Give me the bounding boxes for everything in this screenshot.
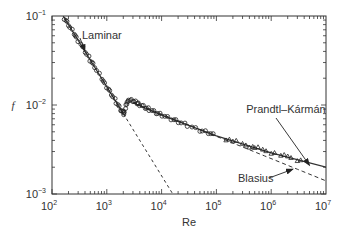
data-marker-triangle [256,145,260,149]
x-tick-label: 106 [260,199,276,212]
y-tick-label: 10−3 [26,187,46,200]
friction-factor-chart: 10210310410510610710−110−210−3 LaminarPr… [0,0,342,232]
annotation-label: Prandtl–Kármán [246,103,326,115]
y-axis-label: f [11,99,16,111]
x-tick-label: 102 [41,199,57,212]
laminar-extrapolation-line [123,114,178,203]
y-tick-label: 10−2 [26,98,46,111]
annotation-label: Blasius [238,172,274,184]
x-tick-label: 103 [96,199,112,212]
x-tick-label: 104 [151,199,167,212]
annotation-label: Laminar [82,29,122,41]
x-tick-label: 105 [205,199,221,212]
x-tick-label: 107 [315,199,331,212]
y-tick-label: 10−1 [26,9,46,22]
x-axis-label: Re [182,216,196,228]
